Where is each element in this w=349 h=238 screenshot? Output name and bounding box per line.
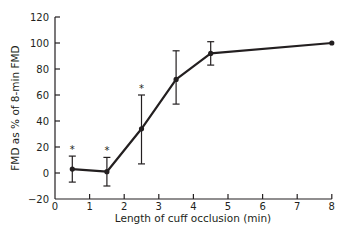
x-tick-label: 2 bbox=[121, 201, 127, 212]
y-tick-label: 0 bbox=[43, 168, 49, 179]
x-tick-label: 5 bbox=[225, 201, 231, 212]
data-point bbox=[208, 51, 213, 56]
significance-marker: * bbox=[104, 145, 109, 156]
x-tick-label: 6 bbox=[259, 201, 265, 212]
x-tick-label: 8 bbox=[329, 201, 335, 212]
series-line bbox=[72, 43, 332, 172]
y-tick-label: 80 bbox=[36, 64, 49, 75]
data-point bbox=[104, 169, 109, 174]
data-point bbox=[70, 167, 75, 172]
x-tick-label: 3 bbox=[156, 201, 162, 212]
x-tick-label: 1 bbox=[86, 201, 92, 212]
x-tick-label: 0 bbox=[52, 201, 58, 212]
y-tick-label: 40 bbox=[36, 116, 49, 127]
y-tick-label: 120 bbox=[30, 12, 49, 23]
x-tick-label: 7 bbox=[294, 201, 300, 212]
x-axis-label: Length of cuff occlusion (min) bbox=[115, 212, 271, 224]
data-series: *** bbox=[69, 40, 335, 186]
y-tick-label: −20 bbox=[28, 194, 49, 205]
y-axis-label: FMD as % of 8-min FMD bbox=[9, 45, 21, 170]
data-point bbox=[139, 126, 144, 131]
y-tick-label: 100 bbox=[30, 38, 49, 49]
data-point bbox=[329, 40, 334, 45]
data-point bbox=[174, 77, 179, 82]
x-tick-label: 4 bbox=[190, 201, 196, 212]
significance-marker: * bbox=[139, 83, 144, 94]
y-tick-label: 20 bbox=[36, 142, 49, 153]
y-tick-label: 60 bbox=[36, 90, 49, 101]
significance-marker: * bbox=[70, 144, 75, 155]
chart: −20020406080100120012345678 *** Length o… bbox=[0, 0, 349, 238]
